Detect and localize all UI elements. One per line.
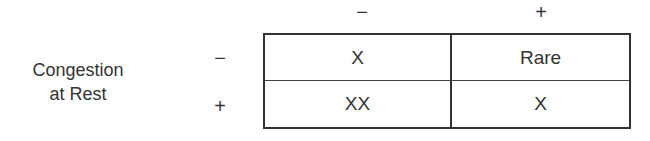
cell-minus-plus: Rare xyxy=(452,35,629,81)
column-header-plus: + xyxy=(526,2,556,22)
row-header-minus: − xyxy=(205,48,235,68)
row-axis-label-line1: Congestion xyxy=(10,58,146,82)
contingency-table: X Rare XX X xyxy=(263,33,631,129)
column-header-minus: − xyxy=(347,2,377,22)
cell-minus-minus: X xyxy=(265,35,452,81)
row-axis-label: Congestion at Rest xyxy=(10,58,146,106)
cell-plus-minus: XX xyxy=(265,81,452,127)
row-header-plus: + xyxy=(205,96,235,116)
cell-plus-plus: X xyxy=(452,81,629,127)
row-axis-label-line2: at Rest xyxy=(10,82,146,106)
